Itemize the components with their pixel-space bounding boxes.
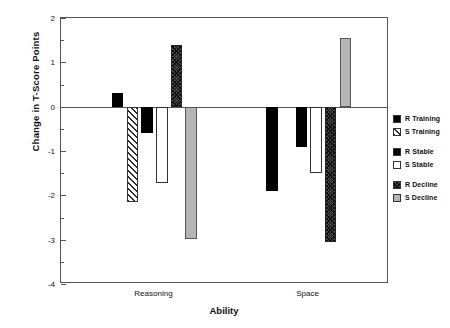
legend-label: S Training [405,128,440,135]
zero-line [61,107,387,108]
legend-label: S Decline [405,194,437,201]
legend-swatch-icon [393,181,401,189]
legend-item: R Stable [393,146,450,157]
y-tick-label: -1 [9,147,61,156]
y-tick-label: 2 [9,14,61,23]
y-tick-mark [61,107,66,108]
legend-label: R Training [405,115,440,122]
y-tick-mark [61,240,66,241]
y-tick-label: -2 [9,191,61,200]
bar-r-training-reasoning [112,93,124,106]
bar-s-decline-space [340,38,352,107]
bar-s-training-reasoning [127,107,139,202]
legend-group-0: R TrainingS Training [393,113,450,137]
bar-r-stable-space [296,107,308,147]
legend-label: R Stable [405,148,434,155]
y-tick-mark-minor [61,262,64,263]
y-tick-mark [61,18,66,19]
bar-r-training-space [266,107,278,191]
y-tick-label: -4 [9,280,61,289]
y-tick-label: -3 [9,235,61,244]
bar-r-decline-reasoning [171,45,183,107]
legend-label: S Stable [405,161,433,168]
y-tick-mark [61,284,66,285]
plot-area: 210-1-2-3-4 [60,17,388,283]
y-tick-mark [61,62,66,63]
x-axis-title: Ability [60,305,388,316]
chart-root: Change in T-Score Points 210-1-2-3-4 Rea… [0,0,450,328]
bar-s-decline-reasoning [185,107,197,239]
y-tick-mark-minor [61,85,64,86]
x-axis-label-reasoning: Reasoning [134,289,172,298]
bar-s-stable-reasoning [156,107,168,183]
legend-swatch-icon [393,148,401,156]
y-tick-mark [61,151,66,152]
legend-group-2: R DeclineS Decline [393,179,450,203]
chart-legend: R TrainingS TrainingR StableS StableR De… [393,113,450,212]
legend-swatch-icon [393,115,401,123]
y-tick-label: 0 [9,102,61,111]
y-axis-title: Change in T-Score Points [30,0,41,187]
legend-swatch-icon [393,194,401,202]
y-tick-mark-minor [61,129,64,130]
y-tick-mark [61,195,66,196]
legend-item: S Stable [393,159,450,170]
x-axis-label-space: Space [296,289,319,298]
legend-item: R Decline [393,179,450,190]
y-tick-mark-minor [61,218,64,219]
bar-r-decline-space [325,107,337,242]
legend-item: S Decline [393,192,450,203]
legend-label: R Decline [405,181,438,188]
y-tick-mark-minor [61,40,64,41]
bar-s-stable-space [310,107,322,174]
legend-swatch-icon [393,128,401,136]
bar-r-stable-reasoning [141,107,153,134]
y-tick-label: 1 [9,58,61,67]
legend-item: R Training [393,113,450,124]
legend-swatch-icon [393,161,401,169]
legend-item: S Training [393,126,450,137]
y-tick-mark-minor [61,173,64,174]
legend-group-1: R StableS Stable [393,146,450,170]
